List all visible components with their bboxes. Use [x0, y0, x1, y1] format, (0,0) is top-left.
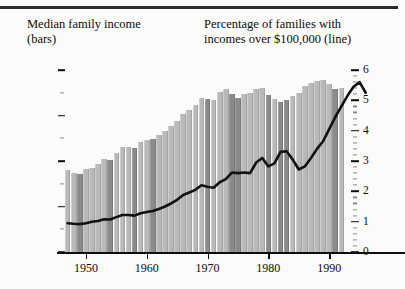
right-axis-minor-tick [353, 215, 357, 216]
right-axis-tick [351, 160, 359, 162]
right-axis-minor-tick [353, 203, 357, 204]
line-series [64, 70, 345, 252]
right-axis-minor-tick [353, 245, 357, 246]
right-axis-minor-tick [353, 197, 357, 198]
x-axis-tick [86, 252, 88, 259]
right-axis-minor-tick [353, 154, 357, 155]
right-axis-minor-tick [353, 112, 357, 113]
right-axis-minor-tick [353, 173, 357, 174]
right-axis-tick [351, 130, 359, 132]
right-axis-header-line1: Percentage of families with [204, 17, 341, 31]
right-axis-tick [351, 69, 359, 71]
x-axis-tick [268, 252, 270, 259]
left-value-axis: $0$10,000$20,000$30,000$40,000 [0, 0, 62, 289]
x-axis-tick-label: 1970 [196, 262, 220, 274]
right-axis-minor-tick [353, 142, 357, 143]
right-axis-tick [351, 221, 359, 223]
x-axis-tick [147, 252, 149, 259]
right-axis-tick-label: 1 [363, 216, 369, 228]
x-axis-tick-label: 1990 [317, 262, 341, 274]
right-axis-tick-label: 4 [363, 125, 369, 137]
right-axis-minor-tick [353, 209, 357, 210]
right-axis-header-line2: incomes over $100,000 (line) [204, 32, 351, 47]
x-axis-tick-label: 1950 [74, 262, 98, 274]
x-axis-tick-label: 1960 [135, 262, 159, 274]
right-axis-minor-tick [353, 82, 357, 83]
right-axis-tick-label: 5 [363, 95, 369, 107]
right-axis-tick-label: 3 [363, 155, 369, 167]
right-axis-minor-tick [353, 233, 357, 234]
right-axis-minor-tick [353, 185, 357, 186]
right-axis-minor-tick [353, 118, 357, 119]
right-axis-minor-tick [353, 227, 357, 228]
right-axis-minor-tick [353, 124, 357, 125]
plot-area [64, 70, 345, 252]
right-axis-minor-tick [353, 239, 357, 240]
right-axis-minor-tick [353, 166, 357, 167]
right-axis-minor-tick [353, 106, 357, 107]
x-axis-tick [208, 252, 210, 259]
right-axis-tick-label: 2 [363, 186, 369, 198]
right-axis-tick-label: 6 [363, 64, 369, 76]
right-axis-minor-tick [353, 75, 357, 76]
right-axis-tick [351, 191, 359, 193]
right-axis-minor-tick [353, 148, 357, 149]
line-series-path [68, 82, 366, 224]
x-axis-line [57, 252, 405, 254]
right-axis-tick [351, 100, 359, 102]
right-axis-minor-tick [353, 179, 357, 180]
right-axis-header: Percentage of families with incomes over… [204, 17, 351, 47]
right-axis-minor-tick [353, 94, 357, 95]
right-axis-minor-tick [353, 136, 357, 137]
x-axis-tick-label: 1980 [256, 262, 280, 274]
x-axis-tick [329, 252, 331, 259]
right-value-axis: 0123456 [345, 0, 398, 289]
